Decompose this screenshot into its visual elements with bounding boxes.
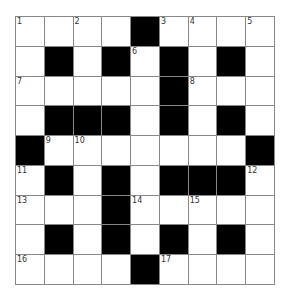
answer-cell[interactable]: 15	[189, 196, 218, 226]
answer-cell[interactable]: 17	[160, 255, 189, 285]
answer-cell[interactable]: 1	[16, 17, 45, 47]
answer-cell[interactable]: 14	[131, 196, 160, 226]
black-cell	[217, 47, 246, 77]
answer-cell[interactable]	[160, 196, 189, 226]
answer-cell[interactable]	[246, 106, 275, 136]
answer-cell[interactable]	[217, 77, 246, 107]
answer-cell[interactable]	[160, 136, 189, 166]
answer-cell[interactable]	[189, 136, 218, 166]
answer-cell[interactable]	[16, 225, 45, 255]
answer-cell[interactable]	[45, 255, 74, 285]
answer-cell[interactable]	[217, 17, 246, 47]
clue-number: 12	[247, 166, 257, 175]
answer-cell[interactable]: 3	[160, 17, 189, 47]
black-cell	[131, 17, 160, 47]
clue-number: 6	[132, 47, 137, 56]
black-cell	[160, 225, 189, 255]
answer-cell[interactable]	[16, 47, 45, 77]
answer-cell[interactable]: 16	[16, 255, 45, 285]
black-cell	[102, 166, 131, 196]
answer-cell[interactable]: 9	[45, 136, 74, 166]
answer-cell[interactable]	[102, 136, 131, 166]
clue-number: 3	[161, 17, 166, 26]
black-cell	[45, 225, 74, 255]
answer-cell[interactable]: 2	[74, 17, 103, 47]
black-cell	[160, 77, 189, 107]
clue-number: 2	[75, 17, 80, 26]
black-cell	[189, 166, 218, 196]
answer-cell[interactable]	[74, 47, 103, 77]
answer-cell[interactable]	[131, 225, 160, 255]
black-cell	[160, 166, 189, 196]
black-cell	[16, 136, 45, 166]
clue-number: 15	[190, 196, 200, 205]
black-cell	[45, 47, 74, 77]
clue-number: 16	[17, 255, 27, 264]
answer-cell[interactable]	[131, 106, 160, 136]
clue-number: 10	[75, 136, 85, 145]
answer-cell[interactable]	[246, 225, 275, 255]
black-cell	[102, 225, 131, 255]
answer-cell[interactable]	[246, 77, 275, 107]
black-cell	[217, 225, 246, 255]
black-cell	[217, 106, 246, 136]
answer-cell[interactable]	[45, 77, 74, 107]
clue-number: 13	[17, 196, 27, 205]
clue-number: 8	[190, 77, 195, 86]
answer-cell[interactable]: 12	[246, 166, 275, 196]
answer-cell[interactable]	[246, 47, 275, 77]
answer-cell[interactable]: 6	[131, 47, 160, 77]
answer-cell[interactable]	[189, 106, 218, 136]
black-cell	[102, 196, 131, 226]
answer-cell[interactable]	[102, 77, 131, 107]
black-cell	[160, 106, 189, 136]
answer-cell[interactable]	[131, 166, 160, 196]
black-cell	[74, 106, 103, 136]
answer-cell[interactable]	[74, 225, 103, 255]
clue-number: 7	[17, 77, 22, 86]
clue-number: 1	[17, 17, 22, 26]
answer-cell[interactable]: 4	[189, 17, 218, 47]
answer-cell[interactable]	[74, 166, 103, 196]
black-cell	[131, 255, 160, 285]
answer-cell[interactable]	[45, 17, 74, 47]
answer-cell[interactable]	[246, 255, 275, 285]
answer-cell[interactable]	[102, 255, 131, 285]
answer-cell[interactable]	[74, 196, 103, 226]
black-cell	[102, 106, 131, 136]
answer-cell[interactable]	[189, 255, 218, 285]
answer-cell[interactable]: 5	[246, 17, 275, 47]
crossword-grid: 1234567891011121314151617	[15, 16, 275, 285]
answer-cell[interactable]	[131, 77, 160, 107]
black-cell	[45, 106, 74, 136]
answer-cell[interactable]	[189, 47, 218, 77]
answer-cell[interactable]	[189, 225, 218, 255]
clue-number: 17	[161, 255, 171, 264]
answer-cell[interactable]	[102, 17, 131, 47]
answer-cell[interactable]	[217, 255, 246, 285]
clue-number: 5	[247, 17, 252, 26]
black-cell	[217, 166, 246, 196]
answer-cell[interactable]	[74, 255, 103, 285]
answer-cell[interactable]	[217, 136, 246, 166]
answer-cell[interactable]: 8	[189, 77, 218, 107]
answer-cell[interactable]: 13	[16, 196, 45, 226]
answer-cell[interactable]	[217, 196, 246, 226]
answer-cell[interactable]: 10	[74, 136, 103, 166]
black-cell	[246, 136, 275, 166]
answer-cell[interactable]	[246, 196, 275, 226]
answer-cell[interactable]	[16, 106, 45, 136]
answer-cell[interactable]	[74, 77, 103, 107]
black-cell	[160, 47, 189, 77]
answer-cell[interactable]: 7	[16, 77, 45, 107]
clue-number: 4	[190, 17, 195, 26]
black-cell	[45, 166, 74, 196]
answer-cell[interactable]	[45, 196, 74, 226]
clue-number: 14	[132, 196, 142, 205]
answer-cell[interactable]	[131, 136, 160, 166]
clue-number: 9	[46, 136, 51, 145]
answer-cell[interactable]: 11	[16, 166, 45, 196]
clue-number: 11	[17, 166, 27, 175]
black-cell	[102, 47, 131, 77]
